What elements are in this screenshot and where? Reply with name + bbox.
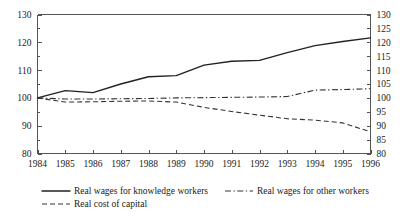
right-axis-tick-label: 110 (377, 66, 391, 76)
right-axis-tick-label: 95 (377, 107, 387, 117)
legend-label-other-workers: Real wages for other workers (257, 186, 369, 196)
x-axis-tick-label: 1990 (195, 159, 214, 169)
x-axis-tick-label: 1992 (250, 159, 269, 169)
left-axis-tick-label: 120 (17, 38, 32, 48)
x-axis-tick-label: 1995 (333, 159, 352, 169)
right-axis-tick-label: 80 (377, 149, 387, 159)
right-axis-tick-label: 125 (377, 24, 392, 34)
legend-label-knowledge-workers: Real wages for knowledge workers (74, 186, 208, 196)
right-axis-tick-label: 85 (377, 135, 387, 145)
right-axis-tick-label: 130 (377, 10, 392, 20)
left-axis-tick-label: 110 (18, 66, 32, 76)
left-axis-tick-label: 100 (17, 93, 32, 103)
x-axis-tick-label: 1993 (278, 159, 297, 169)
x-axis-tick-label: 1991 (222, 159, 241, 169)
x-axis-tick-label: 1986 (84, 159, 103, 169)
x-axis-tick-label: 1987 (111, 159, 130, 169)
x-axis-tick-label: 1985 (56, 159, 75, 169)
x-axis-tick-label: 1996 (361, 159, 380, 169)
left-axis-tick-label: 90 (22, 121, 32, 131)
right-axis-tick-label: 100 (377, 93, 392, 103)
right-axis-tick-label: 115 (377, 52, 391, 62)
legend-label-cost-of-capital: Real cost of capital (74, 199, 147, 209)
right-axis-tick-label: 90 (377, 121, 387, 131)
x-axis-tick-label: 1988 (139, 159, 158, 169)
chart-background (0, 0, 409, 217)
right-axis-tick-label: 105 (377, 79, 392, 89)
right-axis-tick-label: 120 (377, 38, 392, 48)
x-axis-tick-label: 1984 (28, 159, 47, 169)
x-axis-tick-label: 1989 (167, 159, 186, 169)
left-axis-tick-label: 80 (22, 149, 32, 159)
x-axis-tick-label: 1994 (306, 159, 325, 169)
line-chart: 8090100110120130 80859095100105110115120… (0, 0, 409, 217)
chart-figure: 8090100110120130 80859095100105110115120… (0, 0, 409, 217)
left-axis-tick-label: 130 (17, 10, 32, 20)
